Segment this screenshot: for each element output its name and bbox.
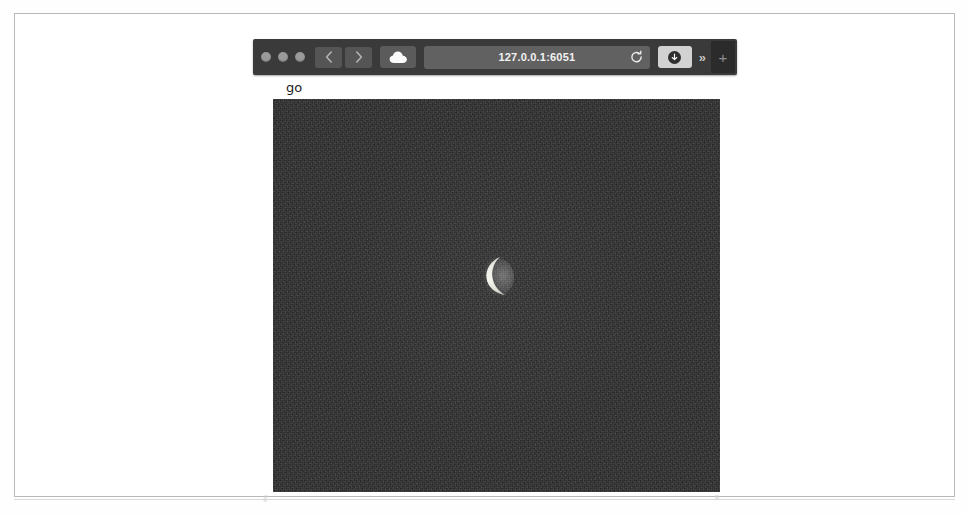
cloud-icon <box>389 51 408 64</box>
navigation-buttons <box>315 47 372 68</box>
zoom-window-button[interactable] <box>295 52 305 62</box>
download-icon <box>668 51 681 64</box>
forward-button[interactable] <box>345 47 372 68</box>
share-button[interactable] <box>658 46 692 68</box>
scan-artifact <box>715 495 720 501</box>
close-window-button[interactable] <box>261 52 271 62</box>
back-button[interactable] <box>315 47 342 68</box>
chevron-right-icon <box>355 51 363 63</box>
window-traffic-lights <box>261 52 305 62</box>
browser-toolbar: 127.0.0.1:6051 » + <box>253 39 737 75</box>
scan-artifact <box>263 495 267 502</box>
icloud-button[interactable] <box>380 46 416 68</box>
chevron-left-icon <box>325 51 333 63</box>
reload-button[interactable] <box>630 51 643 64</box>
crescent-moon-icon <box>472 252 518 301</box>
url-text: 127.0.0.1:6051 <box>498 51 575 63</box>
page-label: go <box>286 80 302 95</box>
reload-icon <box>630 51 643 64</box>
overflow-menu-button[interactable]: » <box>699 50 705 65</box>
new-tab-button[interactable]: + <box>711 41 735 73</box>
address-bar[interactable]: 127.0.0.1:6051 <box>424 46 650 69</box>
scanned-page-frame: 127.0.0.1:6051 » + go <box>14 13 955 497</box>
minimize-window-button[interactable] <box>278 52 288 62</box>
night-sky-image <box>273 99 720 492</box>
